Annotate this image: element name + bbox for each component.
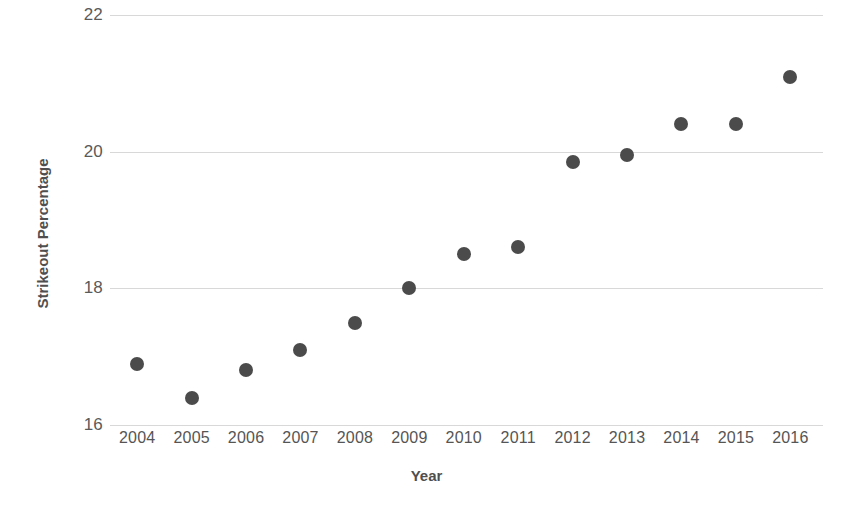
data-point[interactable] bbox=[457, 247, 471, 261]
x-tick-label-2016: 2016 bbox=[760, 429, 820, 447]
data-point[interactable] bbox=[783, 70, 797, 84]
data-point[interactable] bbox=[566, 155, 580, 169]
x-tick-label-2005: 2005 bbox=[162, 429, 222, 447]
data-point[interactable] bbox=[620, 148, 634, 162]
y-axis-title: Strikeout Percentage bbox=[34, 134, 51, 334]
y-tick-label-16: 16 bbox=[63, 415, 103, 435]
x-tick-label-2013: 2013 bbox=[597, 429, 657, 447]
x-tick-label-2006: 2006 bbox=[216, 429, 276, 447]
y-tick-label-18: 18 bbox=[63, 278, 103, 298]
gridline-y-20 bbox=[110, 152, 823, 153]
data-point[interactable] bbox=[239, 363, 253, 377]
data-point[interactable] bbox=[729, 117, 743, 131]
y-tick-label-22: 22 bbox=[63, 5, 103, 25]
x-tick-label-2012: 2012 bbox=[543, 429, 603, 447]
x-tick-label-2015: 2015 bbox=[706, 429, 766, 447]
x-tick-label-2007: 2007 bbox=[270, 429, 330, 447]
gridline-y-18 bbox=[110, 288, 823, 289]
data-point[interactable] bbox=[511, 240, 525, 254]
y-axis-tick-labels: 22201816 bbox=[55, 15, 103, 425]
data-point[interactable] bbox=[402, 281, 416, 295]
data-point[interactable] bbox=[674, 117, 688, 131]
data-point[interactable] bbox=[185, 391, 199, 405]
scatter-chart: 22201816 2004200520062007200820092010201… bbox=[0, 0, 853, 519]
gridline-y-16 bbox=[110, 425, 823, 426]
x-tick-label-2014: 2014 bbox=[651, 429, 711, 447]
x-tick-label-2004: 2004 bbox=[107, 429, 167, 447]
x-tick-label-2009: 2009 bbox=[379, 429, 439, 447]
x-axis-title: Year bbox=[0, 467, 853, 484]
y-tick-label-20: 20 bbox=[63, 142, 103, 162]
x-tick-label-2008: 2008 bbox=[325, 429, 385, 447]
data-point[interactable] bbox=[130, 357, 144, 371]
x-tick-label-2010: 2010 bbox=[434, 429, 494, 447]
data-point[interactable] bbox=[293, 343, 307, 357]
gridline-y-22 bbox=[110, 15, 823, 16]
x-tick-label-2011: 2011 bbox=[488, 429, 548, 447]
data-point[interactable] bbox=[348, 316, 362, 330]
plot-area bbox=[110, 15, 823, 425]
